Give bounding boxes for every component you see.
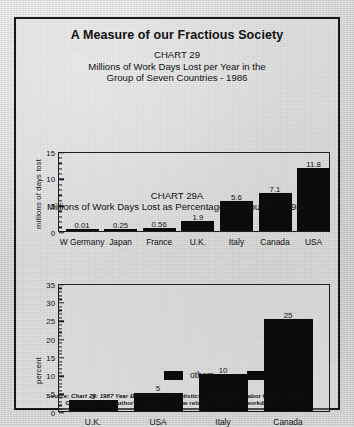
y-axis-minor-tick bbox=[59, 409, 62, 410]
x-axis-tick-label: Japan bbox=[109, 237, 132, 247]
y-axis-minor-tick bbox=[59, 383, 62, 384]
y-axis-tick-label: 30 bbox=[46, 299, 59, 308]
y-axis-minor-tick bbox=[59, 174, 62, 175]
bar-value-label: 0.01 bbox=[74, 221, 89, 230]
y-axis-minor-tick bbox=[59, 343, 62, 344]
y-axis-tick-label: 25 bbox=[46, 317, 59, 326]
bar bbox=[181, 221, 214, 231]
y-axis-minor-tick bbox=[59, 365, 62, 366]
y-axis-minor-tick bbox=[59, 324, 62, 325]
x-axis-tick-label: Italy bbox=[229, 237, 244, 247]
x-axis-tick-label: Canada bbox=[273, 417, 302, 427]
bar-value-label: 1.9 bbox=[192, 213, 203, 222]
y-axis-major-tick bbox=[59, 302, 64, 303]
y-axis-tick-label: 0 bbox=[51, 408, 59, 417]
x-axis-tick-label: USA bbox=[149, 417, 166, 427]
source-line-1: Source: Chart 29: 1987 Year Book of Labo… bbox=[16, 392, 338, 399]
y-axis-major-tick bbox=[59, 357, 64, 358]
y-axis-tick-label: 20 bbox=[46, 335, 59, 344]
y-axis-minor-tick bbox=[59, 168, 62, 169]
bar-value-label: 0.25 bbox=[113, 221, 128, 230]
legend-swatch bbox=[247, 371, 266, 380]
chart29a-number: CHART 29A bbox=[16, 190, 338, 202]
chart29-number: CHART 29 bbox=[16, 49, 338, 61]
source-citation: Chart 29: 1987 Year Book of Labor Statis… bbox=[71, 392, 203, 399]
y-axis-major-tick bbox=[59, 412, 64, 413]
y-axis-minor-tick bbox=[59, 306, 62, 307]
page-title: A Measure of our Fractious Society bbox=[16, 28, 338, 42]
y-axis-tick-label: 15 bbox=[46, 148, 59, 157]
chart29-subtitle-line2: Group of Seven Countries - 1986 bbox=[16, 72, 338, 84]
chart29-subtitle-line1: Millions of Work Days Lost per Year in t… bbox=[16, 61, 338, 73]
y-axis-minor-tick bbox=[59, 227, 62, 228]
y-axis-minor-tick bbox=[59, 335, 62, 336]
y-axis-minor-tick bbox=[59, 216, 62, 217]
y-axis-tick-label: 35 bbox=[46, 280, 59, 289]
x-axis-tick-label: France bbox=[146, 237, 172, 247]
y-axis-major-tick bbox=[59, 284, 64, 285]
y-axis-minor-tick bbox=[59, 387, 62, 388]
y-axis-minor-tick bbox=[59, 354, 62, 355]
x-axis-tick-label: Canada bbox=[260, 237, 289, 247]
y-axis-minor-tick bbox=[59, 328, 62, 329]
y-axis-tick-label: 10 bbox=[46, 175, 59, 184]
figure-page: A Measure of our Fractious Society CHART… bbox=[14, 17, 340, 410]
y-axis-major-tick bbox=[59, 179, 64, 180]
bar-value-label: 25 bbox=[284, 311, 293, 320]
chart29a-y-axis-label: percent bbox=[34, 357, 43, 384]
chart29a-subtitle: Millions of Work Days Lost as Percentage… bbox=[16, 201, 338, 213]
y-axis-minor-tick bbox=[59, 184, 62, 185]
y-axis-minor-tick bbox=[59, 295, 62, 296]
source-suffix: International Labor Office, Geneva. bbox=[203, 392, 308, 399]
chart29a-legend: othersCanada bbox=[164, 370, 303, 380]
source-prefix: Source: bbox=[46, 392, 71, 399]
legend-label: Canada bbox=[273, 370, 303, 380]
y-axis-minor-tick bbox=[59, 368, 62, 369]
y-axis-minor-tick bbox=[59, 346, 62, 347]
y-axis-tick-label: 15 bbox=[46, 353, 59, 362]
y-axis-minor-tick bbox=[59, 163, 62, 164]
source-line-2: Chart 29A is the author's attempt to sho… bbox=[16, 399, 338, 406]
source-note: Source: Chart 29: 1987 Year Book of Labo… bbox=[16, 392, 338, 407]
y-axis-major-tick bbox=[59, 339, 64, 340]
y-axis-minor-tick bbox=[59, 288, 62, 289]
y-axis-minor-tick bbox=[59, 313, 62, 314]
y-axis-minor-tick bbox=[59, 317, 62, 318]
y-axis-minor-tick bbox=[59, 158, 62, 159]
y-axis-major-tick bbox=[59, 321, 64, 322]
legend-swatch bbox=[164, 371, 183, 380]
y-axis-minor-tick bbox=[59, 299, 62, 300]
y-axis-tick-label: 10 bbox=[46, 372, 59, 381]
y-axis-minor-tick bbox=[59, 372, 62, 373]
y-axis-minor-tick bbox=[59, 361, 62, 362]
x-axis-tick-label: U.K. bbox=[85, 417, 101, 427]
y-axis-minor-tick bbox=[59, 332, 62, 333]
legend-label: others bbox=[190, 370, 214, 380]
x-axis-tick-label: Italy bbox=[215, 417, 230, 427]
y-axis-major-tick bbox=[59, 376, 64, 377]
x-axis-tick-label: USA bbox=[305, 237, 322, 247]
y-axis-minor-tick bbox=[59, 292, 62, 293]
y-axis-tick-label: 0 bbox=[51, 228, 59, 237]
x-axis-tick-label: U.K. bbox=[190, 237, 206, 247]
y-axis-major-tick bbox=[59, 152, 64, 153]
y-axis-major-tick bbox=[59, 232, 64, 233]
bar-value-label: 0.56 bbox=[152, 220, 167, 229]
y-axis-minor-tick bbox=[59, 310, 62, 311]
y-axis-minor-tick bbox=[59, 222, 62, 223]
y-axis-minor-tick bbox=[59, 379, 62, 380]
bar-value-label: 11.8 bbox=[306, 160, 321, 169]
y-axis-minor-tick bbox=[59, 350, 62, 351]
x-axis-tick-label: W Germany bbox=[60, 237, 105, 247]
